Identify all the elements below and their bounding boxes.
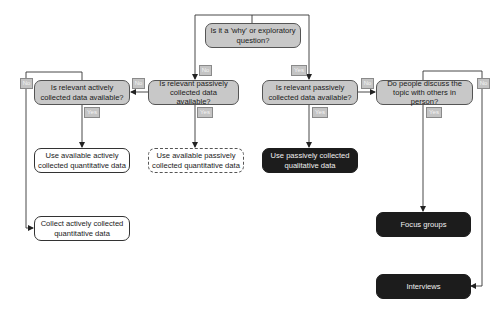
passive-right-yes-label: Yes xyxy=(312,107,328,118)
interviews-node: Interviews xyxy=(376,274,471,299)
person-yes-label: Yes xyxy=(426,107,442,118)
root-yes-label: Yes xyxy=(291,65,307,76)
use-passive-qualitative-node: Use passively collected qualitative data xyxy=(262,148,358,173)
passive-left-no-label: No xyxy=(132,78,145,89)
use-active-quantitative-node: Use available actively collected quantit… xyxy=(34,148,130,173)
active-no-label: No xyxy=(20,78,33,89)
in-person-discussion-question-node: Do people discuss the topic with others … xyxy=(376,80,473,105)
passive-data-question-right-node: Is relevant passively collected data ava… xyxy=(262,80,358,105)
passive-left-yes-label: Yes xyxy=(197,107,213,118)
flowchart-canvas: Is it a 'why' or exploratory question? I… xyxy=(0,0,503,311)
active-data-question-node: Is relevant actively collected data avai… xyxy=(34,80,130,105)
root-question-node: Is it a 'why' or exploratory question? xyxy=(205,23,301,48)
use-passive-quantitative-node: Use available passively collected quanti… xyxy=(148,148,244,173)
person-no-label: No xyxy=(477,78,490,89)
collect-active-quantitative-node: Collect actively collected quantitative … xyxy=(34,216,130,241)
passive-data-question-left-node: Is relevant passively collected data ava… xyxy=(148,80,239,105)
active-yes-label: Yes xyxy=(84,107,100,118)
root-no-label: No xyxy=(199,65,212,76)
passive-right-no-label: No xyxy=(361,78,374,89)
focus-groups-node: Focus groups xyxy=(376,212,471,237)
